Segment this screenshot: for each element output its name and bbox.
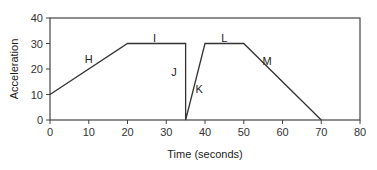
y-tick-label: 0 (37, 114, 43, 126)
x-tick-label: 0 (47, 126, 53, 138)
y-tick-label: 10 (31, 89, 43, 101)
segment-label-j: J (171, 66, 177, 78)
y-tick-label: 30 (31, 38, 43, 50)
x-tick-label: 20 (121, 126, 133, 138)
x-tick-label: 60 (276, 126, 288, 138)
y-axis-ticks: 010203040 (31, 12, 50, 126)
y-tick-label: 40 (31, 12, 43, 24)
x-axis-label: Time (seconds) (167, 148, 242, 160)
x-tick-label: 30 (160, 126, 172, 138)
x-axis-ticks: 01020304050607080 (47, 120, 366, 138)
segment-labels: HIJKLM (85, 32, 272, 95)
acceleration-chart: 010203040 01020304050607080 HIJKLM Time … (0, 0, 377, 170)
plot-border (50, 18, 360, 120)
x-tick-label: 80 (354, 126, 366, 138)
y-axis-label: Acceleration (8, 39, 20, 100)
segment-label-l: L (221, 32, 227, 44)
x-tick-label: 40 (199, 126, 211, 138)
segment-label-i: I (153, 32, 156, 44)
x-tick-label: 10 (83, 126, 95, 138)
x-tick-label: 50 (238, 126, 250, 138)
segment-label-h: H (85, 53, 93, 65)
plot-frame (50, 18, 360, 120)
x-tick-label: 70 (315, 126, 327, 138)
y-tick-label: 20 (31, 63, 43, 75)
segment-label-m: M (262, 55, 271, 67)
segment-label-k: K (196, 83, 204, 95)
